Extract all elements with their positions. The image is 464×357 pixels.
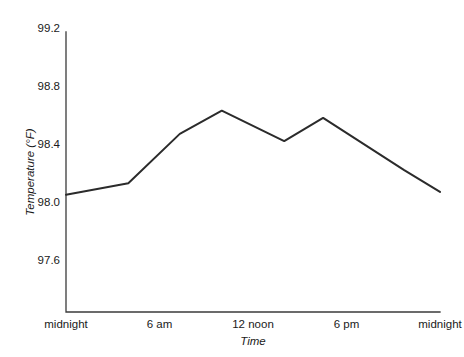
chart-canvas: 99.298.898.498.097.6 midnight6 am12 noon… xyxy=(0,0,464,357)
x-axis-title: Time xyxy=(240,335,265,347)
axis-lines xyxy=(66,32,440,312)
y-tick-label: 99.2 xyxy=(38,22,60,34)
x-tick-label: 6 am xyxy=(147,318,173,330)
y-axis-title: Temperature (°F) xyxy=(24,128,36,215)
x-axis-tick-labels: midnight6 am12 noon6 pmmidnight xyxy=(44,318,462,330)
y-tick-label: 98.8 xyxy=(38,80,60,92)
y-tick-label: 98.0 xyxy=(38,196,60,208)
x-tick-label: 12 noon xyxy=(232,318,274,330)
x-tick-label: midnight xyxy=(418,318,462,330)
y-tick-label: 97.6 xyxy=(38,254,60,266)
temperature-line-chart: 99.298.898.498.097.6 midnight6 am12 noon… xyxy=(0,0,464,357)
series-line-body-temperature xyxy=(66,111,440,195)
y-tick-label: 98.4 xyxy=(38,138,61,150)
y-axis-tick-labels: 99.298.898.498.097.6 xyxy=(38,22,61,266)
x-tick-label: midnight xyxy=(44,318,88,330)
x-tick-label: 6 pm xyxy=(334,318,360,330)
